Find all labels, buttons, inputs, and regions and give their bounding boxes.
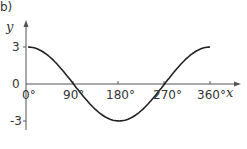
x-axis-label: x: [226, 87, 233, 99]
y-tick-label: -3: [10, 115, 22, 127]
x-tick-label: 270°: [153, 89, 182, 101]
y-axis-arrow-icon: [24, 20, 29, 27]
x-tick-label: 360°: [197, 89, 226, 101]
x-tick-label: 0°: [22, 89, 36, 101]
y-tick-label: 3: [12, 41, 20, 53]
x-axis-arrow-icon: [234, 82, 241, 87]
y-tick-label: 0: [12, 78, 20, 90]
x-tick-label: 90°: [63, 89, 84, 101]
x-tick-label: 180°: [106, 89, 135, 101]
y-axis-label: y: [6, 21, 13, 33]
chart-plot: [0, 0, 247, 149]
